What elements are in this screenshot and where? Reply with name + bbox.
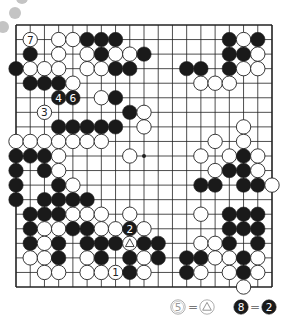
legend-entry: 8=2 [234,300,276,314]
black-stone [66,120,80,134]
decorative-gray-circles [0,0,28,33]
white-stone [80,134,94,148]
white-stone [51,163,65,177]
go-board-diagram: 746321 5=8=2 [0,0,292,320]
black-stone [94,236,108,250]
black-stone [151,251,165,265]
black-stone [179,251,193,265]
white-stone: 1 [108,265,122,279]
white-stone [51,61,65,75]
white-stone [108,47,122,61]
white-stone [37,265,51,279]
white-stone [222,76,236,90]
white-stone [51,32,65,46]
legend: 5=8=2 [171,300,276,314]
black-stone [236,265,250,279]
black-stone [66,222,80,236]
white-stone [208,134,222,148]
black-stone [51,236,65,250]
white-stone [194,236,208,250]
white-stone [194,265,208,279]
white-stone [208,251,222,265]
black-stone [51,178,65,192]
black-stone [37,207,51,221]
white-stone [194,207,208,221]
decor-circle [16,0,28,4]
black-stone [51,120,65,134]
white-stone [66,76,80,90]
black-stone [236,163,250,177]
white-stone [251,251,265,265]
white-stone [37,134,51,148]
black-stone [108,236,122,250]
white-stone [66,178,80,192]
stone-label: 8 [238,301,245,313]
white-stone [23,61,37,75]
black-stone [194,61,208,75]
black-stone: 2 [123,222,137,236]
white-stone [80,47,94,61]
white-stone [208,236,222,250]
black-stone [137,47,151,61]
black-stone [123,105,137,119]
equals-sign: = [250,300,260,314]
black-stone [222,61,236,75]
white-stone [137,120,151,134]
white-stone [23,134,37,148]
black-stone [251,222,265,236]
white-stone [137,251,151,265]
black-stone [236,251,250,265]
white-stone [51,265,65,279]
black-stone [80,32,94,46]
black-stone [222,32,236,46]
black-stone [236,222,250,236]
white-stone [222,265,236,279]
white-stone [66,134,80,148]
white-stone [51,47,65,61]
white-stone [236,32,250,46]
white-stone [37,236,51,250]
white-stone [251,149,265,163]
black-stone [66,192,80,206]
white-stone [66,32,80,46]
black-stone [222,47,236,61]
stone-label: 4 [55,92,62,104]
black-stone [123,251,137,265]
black-stone [51,76,65,90]
black-stone [222,236,236,250]
white-stone [251,265,265,279]
white-stone [236,120,250,134]
black-stone [222,163,236,177]
black-stone [251,236,265,250]
white-stone [94,222,108,236]
white-stone [37,61,51,75]
decor-circle [0,21,9,33]
stone-label: 3 [41,106,48,118]
black-stone [37,149,51,163]
white-stone [236,61,250,75]
black-stone [137,236,151,250]
black-stone [23,76,37,90]
black-stone [123,265,137,279]
white-stone [23,251,37,265]
white-stone [66,207,80,221]
white-stone: 3 [37,105,51,119]
white-stone [80,207,94,221]
white-stone [123,149,137,163]
legend-entry: 5= [171,300,214,314]
black-stone [222,222,236,236]
white-stone [123,207,137,221]
black-stone [251,207,265,221]
black-stone [37,163,51,177]
black-stone [94,120,108,134]
black-stone [151,236,165,250]
black-stone [9,163,23,177]
white-stone [251,61,265,75]
black-stone [80,192,94,206]
white-stone [80,61,94,75]
black-stone: 2 [262,300,276,314]
black-stone [179,265,193,279]
white-stone [222,149,236,163]
white-stone [208,163,222,177]
white-stone [194,76,208,90]
